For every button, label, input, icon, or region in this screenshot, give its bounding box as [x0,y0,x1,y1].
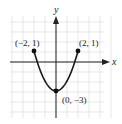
parabola-graph: x y (−2, 1) (2, 1) (0, −3) [0,0,122,124]
graph-canvas: x y (−2, 1) (2, 1) (0, −3) [0,0,122,124]
y-axis-label: y [53,4,59,15]
vertex-marker [54,89,59,94]
point-right-marker [76,49,81,54]
point-left-label: (−2, 1) [15,38,40,48]
x-axis-label: x [111,56,117,67]
vertex-label: (0, −3) [62,95,87,105]
x-axis-arrow-icon [102,59,110,65]
grid-lines [10,16,111,118]
y-axis-arrow-icon [53,16,59,24]
point-right-label: (2, 1) [79,38,99,48]
point-left-marker [32,49,37,54]
